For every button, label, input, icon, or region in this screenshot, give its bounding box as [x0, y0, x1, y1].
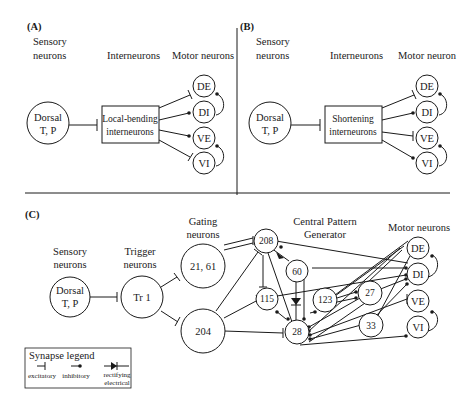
- sensory-node-label-2: T, P: [62, 298, 79, 309]
- motor-label-de: DE: [411, 243, 425, 254]
- motor-column-header: Motor neurons: [172, 50, 234, 61]
- panel-a-label: (A): [27, 21, 42, 33]
- panel-b: (B) Sensory neurons Interneurons Motor n…: [240, 21, 457, 174]
- trigger-column-header: Trigger: [124, 246, 156, 257]
- interneuron-column-header: Interneurons: [330, 50, 383, 61]
- synapse-legend: Synapse legend excitatory inhibitory rec…: [25, 348, 131, 388]
- node-label-28: 28: [292, 327, 302, 337]
- motor-label-ve: VE: [420, 133, 434, 144]
- motor-label-vi: VI: [198, 158, 210, 169]
- motor-label-ve: VE: [197, 133, 211, 144]
- node-label-60: 60: [292, 267, 302, 277]
- motor-label-vi: VI: [412, 322, 424, 333]
- inter-box-label-2: interneurons: [329, 127, 377, 137]
- node-label-208: 208: [259, 236, 274, 246]
- motor-column-header: Motor neuron: [398, 50, 457, 61]
- motor-label-ve: VE: [411, 296, 425, 307]
- sensory-node-dorsal: [249, 102, 291, 144]
- motor-label-de: DE: [420, 81, 434, 92]
- inter-box-label: Local-bending: [102, 114, 158, 124]
- motor-column-header: Motor neurons: [388, 222, 450, 233]
- sensory-column-header: Sensory: [256, 36, 291, 47]
- gating-column-header-2: neurons: [186, 229, 219, 240]
- cpg-column-header: Central Pattern: [293, 216, 357, 227]
- cpg-column-header-2: Generator: [304, 229, 346, 240]
- panel-c-label: (C): [25, 209, 40, 221]
- motor-label-di: DI: [412, 269, 424, 280]
- shortening-interneurons-box: [325, 106, 382, 143]
- legend-rectifying-label-2: electrical: [104, 379, 130, 387]
- sensory-node-label-2: T, P: [262, 125, 279, 136]
- motor-label-de: DE: [197, 81, 211, 92]
- legend-rectifying-label: rectifying: [103, 371, 131, 379]
- legend-title: Synapse legend: [29, 350, 95, 361]
- node-label-115: 115: [260, 294, 274, 304]
- legend-inhibitory-label: inhibitory: [62, 372, 90, 380]
- motor-label-vi: VI: [421, 158, 433, 169]
- sensory-node-dorsal: [27, 102, 69, 144]
- sensory-node-label: Dorsal: [56, 285, 84, 296]
- sensory-node-label: Dorsal: [34, 112, 62, 123]
- inter-box-label: Shortening: [332, 114, 374, 124]
- node-label-27: 27: [365, 288, 375, 298]
- panel-c: (C) Sensory neurons Trigger neurons Gati…: [25, 209, 450, 353]
- panel-a: (A) Sensory neurons Interneurons Motor n…: [27, 21, 234, 174]
- sensory-column-header: Sensory: [33, 36, 68, 47]
- sensory-column-header-2: neurons: [33, 50, 66, 61]
- trigger-node-label: Tr 1: [133, 292, 150, 303]
- node-label-123: 123: [318, 295, 333, 305]
- sensory-column-header-2: neurons: [256, 50, 289, 61]
- local-bending-interneurons-box: [102, 106, 159, 143]
- panel-b-label: (B): [240, 21, 255, 33]
- interneuron-column-header: Interneurons: [107, 50, 160, 61]
- motor-label-di: DI: [198, 107, 210, 118]
- gating-node-label: 21, 61: [190, 261, 216, 272]
- leech-neural-circuit-diagram: (A) Sensory neurons Interneurons Motor n…: [0, 0, 475, 412]
- node-label-33: 33: [366, 321, 376, 331]
- sensory-node-label: Dorsal: [256, 112, 284, 123]
- trigger-column-header-2: neurons: [123, 259, 156, 270]
- inter-box-label-2: interneurons: [106, 127, 154, 137]
- sensory-column-header: Sensory: [53, 246, 88, 257]
- motor-label-di: DI: [421, 107, 433, 118]
- sensory-node-label-2: T, P: [40, 125, 57, 136]
- gating-column-header: Gating: [189, 216, 218, 227]
- sensory-column-header-2: neurons: [53, 259, 86, 270]
- legend-excitatory-label: excitatory: [28, 372, 56, 380]
- sensory-node-dorsal: [50, 277, 90, 317]
- gating-node-label-204: 204: [195, 326, 212, 337]
